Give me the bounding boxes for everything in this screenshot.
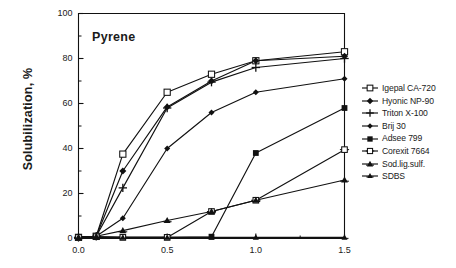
- legend-item-1[interactable]: Igepal CA-720: [360, 82, 456, 95]
- legend-item-3[interactable]: Triton X-100: [360, 107, 456, 120]
- legend-marker-icon: [360, 170, 380, 182]
- series-6: [79, 150, 345, 238]
- x-tick-label: 0.0: [59, 245, 99, 255]
- legend-item-7[interactable]: Sod.lig.sulf.: [360, 158, 456, 171]
- plot-label: Pyrene: [92, 30, 136, 44]
- legend-item-8[interactable]: SDBS: [360, 170, 456, 183]
- legend-label: Brij 30: [380, 122, 406, 131]
- legend-label: Hyonic NP-90: [380, 97, 434, 106]
- y-tick-label: 80: [37, 53, 73, 63]
- x-tick-label: 1.0: [236, 245, 276, 255]
- legend-label: Corexit 7664: [380, 147, 430, 156]
- legend-marker-icon: [360, 133, 380, 145]
- legend-item-6[interactable]: Corexit 7664: [360, 145, 456, 158]
- y-axis-title: Solubilization, %: [21, 29, 35, 209]
- chart-figure: Solubilization, % Pyrene 0204060801000.0…: [0, 0, 456, 268]
- legend-label: Sod.lig.sulf.: [380, 160, 425, 169]
- legend-item-2[interactable]: Hyonic NP-90: [360, 95, 456, 108]
- legend-label: SDBS: [380, 172, 405, 181]
- legend-marker-icon: [360, 145, 380, 157]
- y-tick-label: 20: [37, 188, 73, 198]
- y-tick-label: 0: [37, 233, 73, 243]
- legend-marker-icon: [360, 158, 380, 170]
- legend-marker-icon: [360, 82, 380, 94]
- legend-label: Triton X-100: [380, 109, 428, 118]
- legend-item-5[interactable]: Adsee 799: [360, 132, 456, 145]
- series-markers: [74, 49, 349, 242]
- y-tick-label: 40: [37, 143, 73, 153]
- legend-marker-icon: [360, 120, 380, 132]
- x-tick-label: 1.5: [325, 245, 365, 255]
- legend-label: Adsee 799: [380, 134, 422, 143]
- y-tick-label: 60: [37, 98, 73, 108]
- legend-label: Igepal CA-720: [380, 84, 436, 93]
- legend-marker-icon: [360, 95, 380, 107]
- legend-marker-icon: [360, 107, 380, 119]
- y-tick-label: 100: [37, 8, 73, 18]
- chart-legend: Igepal CA-720Hyonic NP-90Triton X-100Bri…: [360, 82, 456, 183]
- legend-item-4[interactable]: Brij 30: [360, 120, 456, 133]
- x-tick-label: 0.5: [147, 245, 187, 255]
